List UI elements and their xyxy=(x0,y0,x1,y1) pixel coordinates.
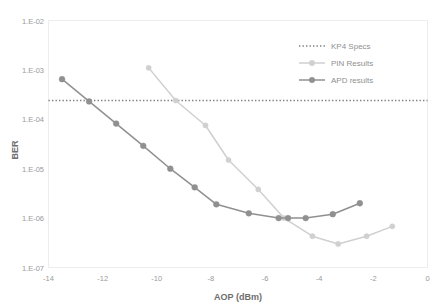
legend-item-label: PIN Results xyxy=(331,59,373,68)
series-apd-results xyxy=(59,76,363,221)
apd-results-point xyxy=(86,99,92,105)
x-tick-label: -8 xyxy=(208,274,215,283)
apd-results-point xyxy=(285,215,291,221)
y-axis-title: BER xyxy=(10,140,20,160)
pin-results-point xyxy=(390,224,395,229)
pin-results-point xyxy=(203,123,208,128)
legend-item-label: APD results xyxy=(331,76,373,85)
pin-results-point xyxy=(173,98,178,103)
chart-legend: KP4 SpecsPIN ResultsAPD results xyxy=(299,42,373,85)
y-tick-label: 1.E-04 xyxy=(22,115,44,124)
legend-item-pin-results[interactable]: PIN Results xyxy=(299,59,373,68)
apd-results-point xyxy=(246,210,252,216)
pin-results-point xyxy=(336,241,341,246)
pin-results-point xyxy=(226,157,231,162)
apd-results-point xyxy=(140,143,146,149)
x-tick-label: -6 xyxy=(262,274,269,283)
apd-results-point xyxy=(213,201,219,207)
y-tick-label: 1.E-05 xyxy=(22,165,44,174)
apd-results-point xyxy=(357,200,363,206)
x-tick-label: -12 xyxy=(97,274,108,283)
apd-results-point xyxy=(59,76,65,82)
x-tick-label: -2 xyxy=(370,274,377,283)
x-tick-label: 0 xyxy=(425,274,429,283)
pin-results-point xyxy=(256,187,261,192)
legend-item-apd-results[interactable]: APD results xyxy=(299,76,373,85)
y-tick-label: 1.E-06 xyxy=(22,214,44,223)
x-tick-label: -10 xyxy=(151,274,162,283)
y-tick-label: 1.E-02 xyxy=(22,17,44,26)
x-axis-tick-labels: -14-12-10-8-6-4-20 xyxy=(43,274,430,283)
apd-results-point xyxy=(113,121,119,127)
x-axis-title: AOP (dBm) xyxy=(214,292,262,302)
series-pin-results xyxy=(146,65,395,246)
legend-item-label: KP4 Specs xyxy=(331,42,371,51)
legend-item-kp4-specs[interactable]: KP4 Specs xyxy=(299,42,371,51)
x-tick-label: -4 xyxy=(316,274,323,283)
apd-results-point xyxy=(303,215,309,221)
y-tick-label: 1.E-03 xyxy=(22,66,44,75)
y-tick-label: 1.E-07 xyxy=(22,264,44,273)
legend-marker-icon xyxy=(309,77,315,83)
plot-area-frame xyxy=(49,21,428,268)
y-axis-tick-labels: 1.E-021.E-031.E-041.E-051.E-061.E-07 xyxy=(22,17,44,273)
x-tick-label: -14 xyxy=(43,274,54,283)
pin-results-point xyxy=(364,234,369,239)
apd-results-point xyxy=(192,184,198,190)
pin-results-point xyxy=(146,65,151,70)
ber-vs-aop-chart: 1.E-021.E-031.E-041.E-051.E-061.E-07 -14… xyxy=(0,0,436,307)
pin-results-point xyxy=(310,234,315,239)
chart-container: 1.E-021.E-031.E-041.E-051.E-061.E-07 -14… xyxy=(0,0,436,307)
legend-marker-icon xyxy=(309,60,315,66)
apd-results-point xyxy=(167,166,173,172)
apd-results-point xyxy=(330,211,336,217)
apd-results-point xyxy=(276,215,282,221)
